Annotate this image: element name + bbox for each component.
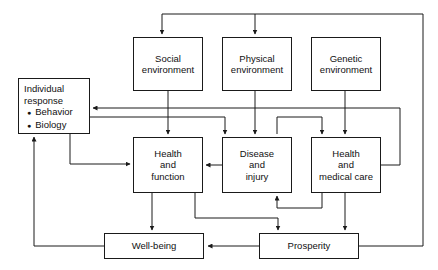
node-disease-and-injury-line-2: and: [249, 159, 265, 171]
node-individual-response-bullet-1: ● Behavior: [24, 106, 73, 119]
node-prosperity-label: Prosperity: [288, 240, 331, 252]
node-genetic-environment-line-2: environment: [320, 64, 372, 76]
node-prosperity[interactable]: Prosperity: [259, 233, 359, 259]
node-disease-and-injury[interactable]: Disease and injury: [222, 137, 292, 193]
node-individual-response-bullet-2-label: Biology: [35, 119, 66, 131]
node-individual-response-line-1: Individual: [24, 83, 64, 95]
node-individual-response-bullet-1-label: Behavior: [35, 106, 73, 118]
node-physical-environment-line-1: Physical: [239, 53, 274, 65]
edge-health-function-to-prosperity: [195, 193, 278, 230]
node-health-and-medical-care[interactable]: Health and medical care: [311, 137, 381, 193]
node-health-and-function-line-1: Health: [154, 148, 181, 160]
node-well-being[interactable]: Well-being: [104, 233, 204, 259]
node-genetic-environment[interactable]: Genetic environment: [311, 37, 381, 91]
edge-individual-to-medical-care: [277, 117, 322, 134]
node-physical-environment[interactable]: Physical environment: [222, 37, 292, 91]
node-well-being-label: Well-being: [132, 240, 177, 252]
node-health-and-function-line-3: function: [151, 171, 184, 183]
bullet-dot-icon: ●: [27, 120, 31, 132]
edge-individual-to-disease: [90, 117, 225, 134]
node-social-environment[interactable]: Social environment: [133, 37, 203, 91]
node-individual-response[interactable]: Individual response ● Behavior ● Biology: [18, 78, 90, 134]
diagram-canvas: Individual response ● Behavior ● Biology…: [0, 0, 438, 270]
node-genetic-environment-line-1: Genetic: [330, 53, 363, 65]
node-health-and-medical-care-line-1: Health: [332, 148, 359, 160]
bullet-dot-icon: ●: [27, 107, 31, 119]
node-individual-response-line-2: response: [24, 95, 63, 107]
node-disease-and-injury-line-3: injury: [246, 171, 269, 183]
node-social-environment-line-1: Social: [155, 53, 181, 65]
node-physical-environment-line-2: environment: [231, 64, 283, 76]
node-individual-response-bullet-2: ● Biology: [24, 119, 66, 132]
node-disease-and-injury-line-1: Disease: [240, 148, 274, 160]
edge-well-being-to-individual: [34, 137, 104, 246]
edge-individual-to-health-function: [70, 134, 130, 164]
node-health-and-medical-care-line-2: and: [338, 159, 354, 171]
edge-medical-care-to-disease: [277, 193, 322, 208]
node-health-and-function-line-2: and: [160, 159, 176, 171]
node-health-and-medical-care-line-3: medical care: [319, 171, 373, 183]
node-social-environment-line-2: environment: [142, 64, 194, 76]
node-health-and-function[interactable]: Health and function: [133, 137, 203, 193]
